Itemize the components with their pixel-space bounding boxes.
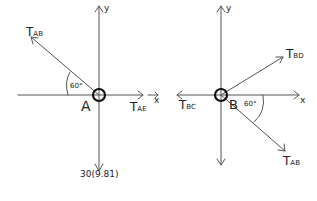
b-angle-label: 60° [244,101,256,108]
b-tab-label: TAB [283,155,300,167]
a-tae-label: TAE [130,101,147,113]
a-tab-label: TAB [26,26,43,38]
a-weight-label: 30(9.81) [80,170,119,179]
b-x-label: x [300,96,305,105]
a-x-label: x [154,96,159,105]
b-tbc-label: TBC [179,99,196,111]
b-tbd-label: TBD [286,48,304,60]
joint-b-label: B [229,98,238,111]
a-tab-vector [31,37,99,95]
a-angle-label: 60° [70,83,82,90]
b-tbd-vector [221,57,283,95]
joint-a-label: A [81,99,91,113]
a-y-label: y [104,4,109,13]
b-y-label: y [226,4,231,13]
